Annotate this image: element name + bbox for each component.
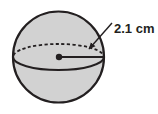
sphere-diagram-svg: 2.1 cm	[0, 0, 158, 114]
sphere-diagram: 2.1 cm	[0, 0, 158, 114]
radius-dimension-label: 2.1 cm	[114, 21, 154, 36]
center-dot	[56, 54, 62, 60]
